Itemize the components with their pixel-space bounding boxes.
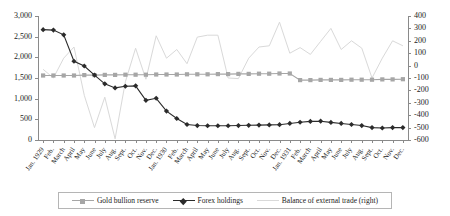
data-point-marker — [195, 123, 200, 128]
data-point-marker — [72, 73, 76, 77]
data-point-marker — [195, 72, 199, 76]
data-point-marker — [236, 123, 241, 128]
data-point-marker — [349, 78, 353, 82]
data-point-marker — [216, 72, 220, 76]
data-point-marker — [370, 78, 374, 82]
data-point-marker — [103, 73, 107, 77]
series-line — [43, 22, 403, 139]
data-point-marker — [71, 59, 76, 64]
data-point-marker — [267, 122, 272, 127]
data-point-marker — [226, 123, 231, 128]
chart-container: 05001,0001,5002,0002,5003,000 -600-500-4… — [0, 0, 450, 216]
data-point-marker — [226, 72, 230, 76]
data-point-marker — [400, 125, 405, 130]
data-point-marker — [380, 125, 385, 130]
data-point-marker — [62, 73, 66, 77]
data-point-marker — [206, 72, 210, 76]
data-point-marker — [308, 119, 313, 124]
data-point-marker — [112, 85, 117, 90]
data-point-marker — [184, 122, 189, 127]
data-point-marker — [236, 72, 240, 76]
data-point-marker — [41, 27, 46, 32]
data-point-marker — [113, 73, 117, 77]
data-point-marker — [319, 78, 323, 82]
data-point-marker — [349, 122, 354, 127]
data-point-marker — [123, 84, 128, 89]
data-point-marker — [360, 78, 364, 82]
data-point-marker — [401, 77, 405, 81]
data-point-marker — [41, 73, 45, 77]
data-point-marker — [164, 72, 168, 76]
data-point-marker — [185, 72, 189, 76]
data-point-marker — [308, 78, 312, 82]
data-point-marker — [329, 78, 333, 82]
data-point-marker — [297, 120, 302, 125]
data-point-marker — [339, 78, 343, 82]
series-gold-bullion-reserve — [41, 71, 405, 82]
series-layer — [0, 0, 450, 216]
data-point-marker — [288, 71, 292, 75]
data-point-marker — [175, 72, 179, 76]
data-point-marker — [154, 72, 158, 76]
data-point-marker — [205, 123, 210, 128]
series-balance-of-external-trade-right — [43, 22, 403, 139]
data-point-marker — [369, 125, 374, 130]
data-point-marker — [298, 78, 302, 82]
data-point-marker — [246, 123, 251, 128]
data-point-marker — [390, 125, 395, 130]
data-point-marker — [256, 123, 261, 128]
data-point-marker — [391, 77, 395, 81]
data-point-marker — [277, 122, 282, 127]
data-point-marker — [123, 73, 127, 77]
data-point-marker — [134, 73, 138, 77]
data-point-marker — [339, 121, 344, 126]
data-point-marker — [318, 119, 323, 124]
data-point-marker — [267, 72, 271, 76]
data-point-marker — [328, 120, 333, 125]
data-point-marker — [287, 121, 292, 126]
data-point-marker — [277, 71, 281, 75]
data-point-marker — [51, 27, 56, 32]
data-point-marker — [215, 123, 220, 128]
data-point-marker — [247, 72, 251, 76]
series-line — [43, 30, 403, 128]
data-point-marker — [61, 32, 66, 37]
data-point-marker — [51, 73, 55, 77]
data-point-marker — [257, 72, 261, 76]
data-point-marker — [82, 73, 86, 77]
data-point-marker — [144, 73, 148, 77]
data-point-marker — [380, 77, 384, 81]
data-point-marker — [359, 123, 364, 128]
